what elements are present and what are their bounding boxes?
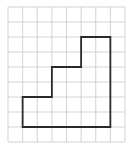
grid-figure — [0, 0, 131, 146]
grid-lines — [8, 7, 125, 142]
